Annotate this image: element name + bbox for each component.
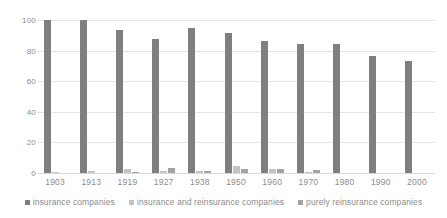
bar <box>277 169 284 173</box>
bar <box>204 171 211 173</box>
plot-area <box>37 20 435 173</box>
bar <box>80 20 87 173</box>
x-axis-tick-label: 1903 <box>37 174 73 190</box>
y-axis-tick-label: 80 <box>12 46 36 55</box>
bar <box>44 20 51 173</box>
legend-swatch-icon <box>129 200 134 205</box>
bar <box>88 171 95 173</box>
bar <box>233 166 240 173</box>
legend-label: purely reinsurance companies <box>306 197 422 207</box>
bar <box>196 171 203 173</box>
bar-group-1927 <box>146 20 182 173</box>
x-axis-tick-label: 1938 <box>182 174 218 190</box>
bar-group-1903 <box>37 20 73 173</box>
bar-group-1970 <box>290 20 326 173</box>
legend-item[interactable]: purely reinsurance companies <box>298 197 422 207</box>
legend-item[interactable]: insurance companies <box>25 197 115 207</box>
legend-label: insurance and reinsurance companies <box>137 197 284 207</box>
x-axis-tick-label: 1927 <box>146 174 182 190</box>
bar <box>160 171 167 173</box>
chart-legend: insurance companiesinsurance and reinsur… <box>0 197 447 207</box>
x-axis-tick-label: 1919 <box>109 174 145 190</box>
bar-group-2000 <box>399 20 435 173</box>
bar <box>333 44 340 173</box>
bar <box>188 28 195 173</box>
bar <box>241 169 248 173</box>
legend-label: insurance companies <box>33 197 115 207</box>
bar <box>313 170 320 173</box>
bar-group-1950 <box>218 20 254 173</box>
x-axis-labels: 1903191319191927193819501960197019801990… <box>37 174 435 190</box>
y-axis-tick-label: 100 <box>12 16 36 25</box>
legend-item[interactable]: insurance and reinsurance companies <box>129 197 284 207</box>
bar-chart: 100806040200 190319131919192719381950196… <box>0 0 447 218</box>
bar <box>52 172 59 173</box>
bar <box>168 168 175 173</box>
bar-group-1913 <box>73 20 109 173</box>
x-axis-tick-label: 1960 <box>254 174 290 190</box>
bar <box>305 172 312 173</box>
legend-swatch-icon <box>25 200 30 205</box>
y-axis-tick-label: 0 <box>12 169 36 178</box>
bar-group-1960 <box>254 20 290 173</box>
bar <box>132 172 139 173</box>
bar <box>269 169 276 173</box>
y-axis-tick-label: 40 <box>12 107 36 116</box>
x-axis-tick-label: 1980 <box>327 174 363 190</box>
x-axis-tick-label: 1913 <box>73 174 109 190</box>
x-axis-tick-label: 1970 <box>290 174 326 190</box>
bar-group-1990 <box>363 20 399 173</box>
x-axis-tick-label: 1950 <box>218 174 254 190</box>
bar <box>405 61 412 173</box>
bar-group-1938 <box>182 20 218 173</box>
bar-groups <box>37 20 435 173</box>
bar <box>225 33 232 173</box>
bar <box>261 41 268 173</box>
bar <box>297 44 304 173</box>
bar-group-1919 <box>109 20 145 173</box>
bar <box>124 169 131 173</box>
bar <box>152 39 159 173</box>
y-axis-tick-label: 60 <box>12 77 36 86</box>
legend-swatch-icon <box>298 200 303 205</box>
bar <box>116 30 123 173</box>
x-axis-tick-label: 1990 <box>363 174 399 190</box>
x-axis-tick-label: 2000 <box>399 174 435 190</box>
bar-group-1980 <box>327 20 363 173</box>
y-axis-tick-label: 20 <box>12 138 36 147</box>
bar <box>369 56 376 173</box>
